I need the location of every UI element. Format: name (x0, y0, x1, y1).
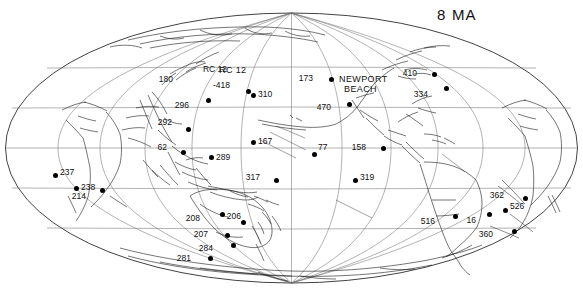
site-label: 292 (158, 118, 172, 127)
site-dot-icon (512, 229, 517, 234)
site-dot-icon (329, 77, 334, 82)
site-label: -418 (213, 81, 230, 90)
site-dot-icon (251, 93, 256, 98)
site-label: 281 (177, 254, 191, 263)
site-dot-icon (453, 214, 458, 219)
site-label: 526 (510, 202, 524, 211)
site-label: 16 (467, 216, 476, 225)
site-dot-icon (523, 196, 528, 201)
site-label: 334 (414, 90, 428, 99)
site-label: 296 (175, 101, 189, 110)
site-dot-icon (432, 72, 437, 77)
site-dot-icon (251, 140, 256, 145)
site-label: 360 (479, 230, 493, 239)
site-label: 310 (258, 90, 272, 99)
site-dot-icon (381, 146, 386, 151)
site-label: 167 (258, 137, 272, 146)
site-dot-icon (312, 152, 317, 157)
site-dot-icon (225, 233, 230, 238)
site-label: 208 (186, 214, 200, 223)
site-label: 410 (403, 69, 417, 78)
site-label: 362 (490, 191, 504, 200)
site-label: 158 (352, 143, 366, 152)
site-label: 77 (318, 143, 327, 152)
site-label: 173 (299, 74, 313, 83)
site-dot-icon (274, 178, 279, 183)
site-dot-icon (444, 86, 449, 91)
site-label: 207 (194, 230, 208, 239)
world-map (0, 0, 583, 306)
map-text-annotation: RC 12 (219, 65, 247, 75)
map-text-annotation: BEACH (344, 84, 377, 94)
site-label: 62 (158, 143, 167, 152)
figure-title: 8 MA (437, 6, 477, 23)
site-dot-icon (74, 186, 79, 191)
site-label: 214 (72, 192, 86, 201)
map-text-annotation: NEWPORT (339, 74, 388, 84)
site-dot-icon (241, 220, 246, 225)
site-label: 470 (317, 103, 331, 112)
site-dot-icon (246, 89, 251, 94)
site-label: 206 (227, 212, 241, 221)
site-dot-icon (209, 155, 214, 160)
site-dot-icon (231, 243, 236, 248)
site-label: 180 (159, 75, 173, 84)
site-dot-icon (181, 150, 186, 155)
site-dot-icon (53, 173, 58, 178)
site-dot-icon (186, 127, 191, 132)
site-dot-icon (347, 102, 352, 107)
site-dot-icon (208, 256, 213, 261)
site-label: 289 (216, 153, 230, 162)
site-dot-icon (503, 208, 508, 213)
site-label: 284 (199, 244, 213, 253)
site-dot-icon (100, 188, 105, 193)
site-label: 516 (421, 217, 435, 226)
site-dot-icon (206, 98, 211, 103)
site-label: 237 (60, 168, 74, 177)
figure-canvas: 8 MA 180RC 12-41831029629262289167173470… (0, 0, 583, 306)
site-dot-icon (220, 212, 225, 217)
site-dot-icon (353, 178, 358, 183)
site-label: 317 (246, 173, 260, 182)
site-label: 319 (360, 173, 374, 182)
site-dot-icon (487, 212, 492, 217)
